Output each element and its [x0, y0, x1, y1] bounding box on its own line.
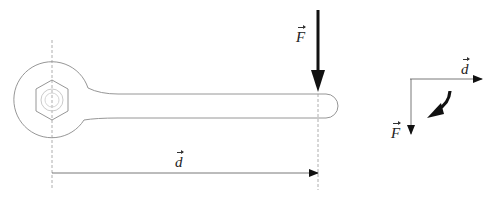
distance-label: d [175, 155, 183, 170]
rotation-arrow-icon [427, 91, 450, 118]
force-label: F [296, 30, 305, 45]
side-distance-label: d [461, 62, 469, 77]
wrench [14, 62, 338, 138]
wrench-torque-diagram [0, 0, 491, 198]
wrench-head-outline [14, 62, 88, 138]
force-arrow [311, 10, 325, 92]
wrench-handle-outline [84, 88, 338, 120]
side-force-label: F [391, 126, 400, 141]
